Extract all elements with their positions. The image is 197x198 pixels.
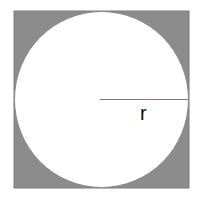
circle-in-square-diagram: r [0,0,197,198]
radius-label: r [140,102,147,124]
